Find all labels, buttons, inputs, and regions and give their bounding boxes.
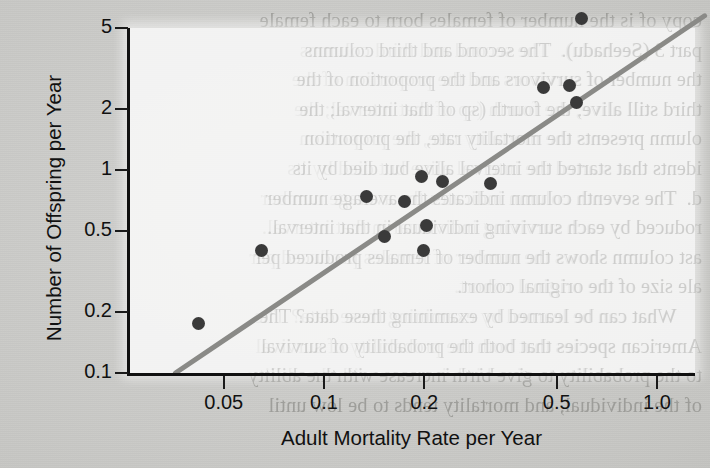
scatter-chart: 0.10.20.5125 0.050.10.20.51.0 Number of … <box>0 0 710 468</box>
data-point <box>415 170 428 183</box>
y-tick-label-2: 2 <box>70 96 112 119</box>
y-axis-line <box>127 28 130 376</box>
x-tick-0.2 <box>423 376 425 389</box>
y-tick-label-0.1: 0.1 <box>70 360 112 383</box>
y-tick-0.5 <box>115 230 128 232</box>
x-tick-0.5 <box>556 376 558 389</box>
y-tick-2 <box>115 108 128 110</box>
x-tick-1.0 <box>656 376 658 389</box>
regression-line <box>175 16 704 373</box>
y-tick-0.2 <box>115 311 128 313</box>
data-point <box>563 79 576 92</box>
x-tick-0.05 <box>223 376 225 389</box>
x-tick-label-0.1: 0.1 <box>289 391 359 414</box>
data-point <box>537 81 550 94</box>
y-tick-1 <box>115 169 128 171</box>
y-tick-0.1 <box>115 372 128 374</box>
x-tick-label-0.5: 0.5 <box>522 391 592 414</box>
y-tick-label-5: 5 <box>70 15 112 38</box>
x-tick-label-0.05: 0.05 <box>189 391 259 414</box>
x-axis-line <box>127 373 695 376</box>
y-tick-label-1: 1 <box>70 157 112 180</box>
data-point <box>436 175 449 188</box>
y-tick-label-0.5: 0.5 <box>70 218 112 241</box>
x-tick-label-0.2: 0.2 <box>389 391 459 414</box>
y-tick-label-0.2: 0.2 <box>70 299 112 322</box>
y-axis-title: Number of Offspring per Year <box>42 38 66 378</box>
y-tick-5 <box>115 27 128 29</box>
data-point <box>360 190 373 203</box>
x-tick-label-1.0: 1.0 <box>622 391 692 414</box>
data-point <box>484 177 497 190</box>
x-axis-title: Adult Mortality Rate per Year <box>128 426 695 450</box>
data-point <box>398 195 411 208</box>
x-tick-0.1 <box>323 376 325 389</box>
